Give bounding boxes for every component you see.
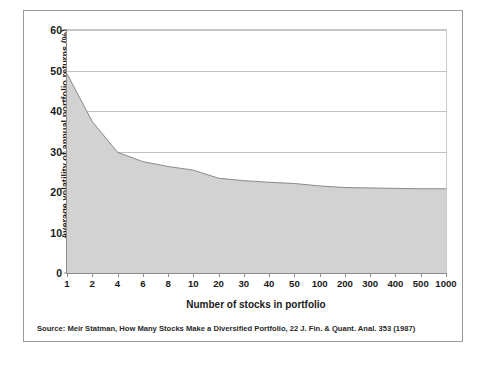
x-tick-mark	[92, 273, 93, 277]
x-tick-label: 30	[239, 278, 250, 289]
plot-area: 0102030405060124681020304050100200300400…	[66, 29, 447, 274]
x-tick-label: 2	[90, 278, 95, 289]
x-tick-label: 10	[188, 278, 199, 289]
x-tick-mark	[143, 273, 144, 277]
x-tick-mark	[244, 273, 245, 277]
x-tick-mark	[118, 273, 119, 277]
y-tick-label: 50	[50, 65, 62, 77]
x-tick-label: 100	[312, 278, 328, 289]
x-tick-mark	[370, 273, 371, 277]
x-tick-label: 8	[165, 278, 170, 289]
x-axis-title: Number of stocks in portfolio	[66, 299, 446, 310]
x-tick-mark	[269, 273, 270, 277]
chart-area-series	[67, 30, 446, 273]
y-tick-label: 0	[56, 267, 62, 279]
x-tick-label: 4	[115, 278, 120, 289]
x-tick-mark	[219, 273, 220, 277]
area-fill	[67, 74, 446, 273]
y-tick-label: 60	[50, 24, 62, 36]
figure-frame: Average volatility of annual portfolio r…	[23, 10, 463, 342]
y-tick-label: 20	[50, 186, 62, 198]
x-tick-label: 1000	[435, 278, 456, 289]
x-tick-mark	[67, 273, 68, 277]
y-tick-label: 30	[50, 146, 62, 158]
x-tick-mark	[395, 273, 396, 277]
x-tick-label: 40	[264, 278, 275, 289]
x-tick-label: 1	[64, 278, 69, 289]
source-note: Source: Meir Statman, How Many Stocks Ma…	[37, 324, 457, 333]
x-tick-mark	[294, 273, 295, 277]
y-tick-label: 40	[50, 105, 62, 117]
x-tick-label: 200	[337, 278, 353, 289]
x-tick-label: 300	[362, 278, 378, 289]
y-tick-label: 10	[50, 227, 62, 239]
x-tick-mark	[193, 273, 194, 277]
x-tick-label: 6	[140, 278, 145, 289]
x-tick-mark	[446, 273, 447, 277]
x-tick-mark	[320, 273, 321, 277]
x-tick-label: 400	[387, 278, 403, 289]
x-tick-label: 50	[289, 278, 300, 289]
x-tick-mark	[168, 273, 169, 277]
x-tick-label: 20	[213, 278, 224, 289]
x-tick-label: 500	[413, 278, 429, 289]
x-tick-mark	[345, 273, 346, 277]
x-tick-mark	[421, 273, 422, 277]
